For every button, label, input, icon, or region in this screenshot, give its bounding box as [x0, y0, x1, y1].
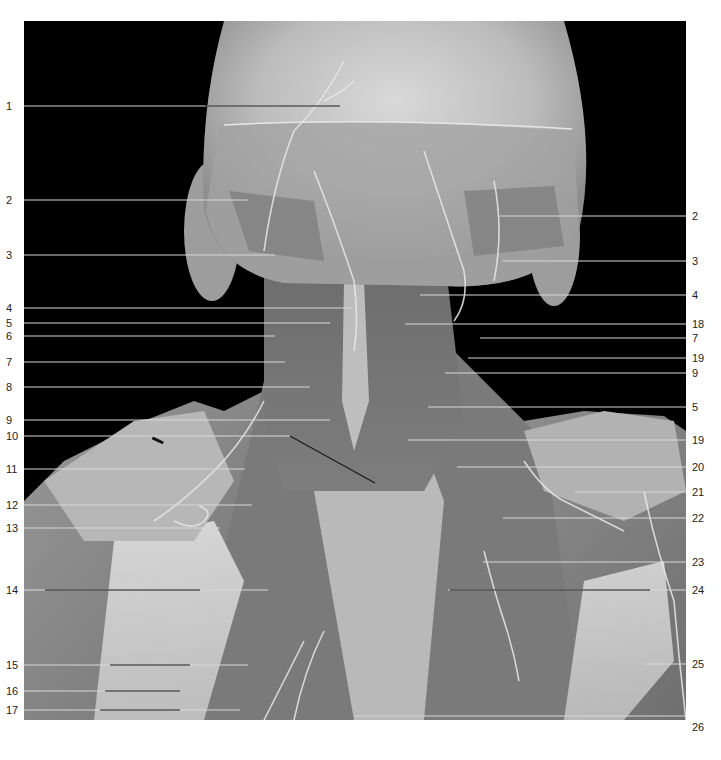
label-number-left: 10: [6, 430, 22, 442]
label-number-left: 2: [6, 194, 22, 206]
label-number-left: 8: [6, 381, 22, 393]
label-number-left: 5: [6, 317, 22, 329]
anatomical-figure: 1234567891011121314151617234187199519202…: [0, 0, 721, 760]
leader-lines: [0, 0, 721, 760]
label-number-right: 18: [692, 318, 716, 330]
label-number-left: 15: [6, 659, 22, 671]
label-number-right: 5: [692, 401, 716, 413]
label-number-left: 6: [6, 330, 22, 342]
label-number-right: 7: [692, 332, 716, 344]
label-number-left: 7: [6, 356, 22, 368]
label-number-right: 23: [692, 556, 716, 568]
label-number-left: 4: [6, 302, 22, 314]
label-number-left: 16: [6, 685, 22, 697]
leader-line: [290, 436, 375, 483]
label-number-left: 12: [6, 499, 22, 511]
label-number-left: 3: [6, 249, 22, 261]
label-number-left: 14: [6, 584, 22, 596]
label-number-left: 9: [6, 414, 22, 426]
label-number-left: 13: [6, 522, 22, 534]
label-number-right: 26: [692, 721, 716, 733]
label-number-right: 25: [692, 658, 716, 670]
label-number-left: 1: [6, 100, 22, 112]
label-number-right: 19: [692, 434, 716, 446]
label-number-right: 20: [692, 461, 716, 473]
label-number-right: 3: [692, 255, 716, 267]
label-number-right: 24: [692, 584, 716, 596]
label-number-right: 22: [692, 512, 716, 524]
label-number-right: 4: [692, 289, 716, 301]
label-number-left: 11: [6, 463, 22, 475]
label-number-left: 17: [6, 704, 22, 716]
label-number-right: 9: [692, 367, 716, 379]
label-number-right: 2: [692, 210, 716, 222]
label-number-right: 19: [692, 352, 716, 364]
label-number-right: 21: [692, 486, 716, 498]
